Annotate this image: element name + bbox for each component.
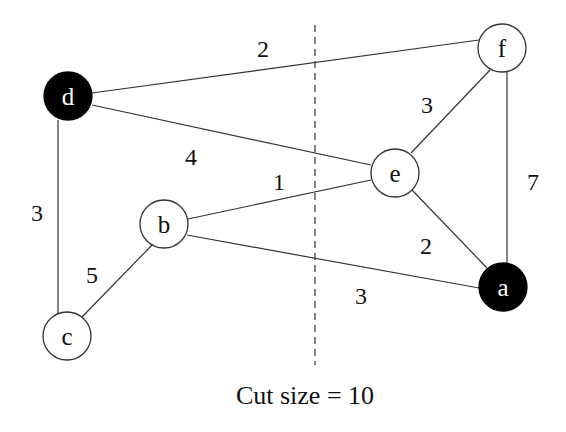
weight-b-c: 5 [86,262,98,288]
node-d: d [44,72,92,120]
weight-f-a: 7 [527,169,539,195]
node-c-label: c [61,323,72,350]
weight-d-f: 2 [257,36,269,62]
weight-e-b: 1 [273,169,285,195]
cut-size-caption: Cut size = 10 [236,381,374,410]
node-a: a [479,263,527,311]
node-f-label: f [498,35,507,62]
weight-d-c: 3 [31,200,43,226]
weight-f-e: 3 [421,92,433,118]
node-b-label: b [158,211,171,238]
graph-diagram: 2 4 3 3 7 1 2 3 5 d f e b a c Cut size =… [0,0,566,432]
node-e: e [371,149,419,197]
edge-weights: 2 4 3 3 7 1 2 3 5 [31,36,539,309]
node-c: c [43,312,91,360]
edge-d-f [92,40,479,93]
node-a-label: a [497,274,508,301]
node-b: b [140,200,188,248]
node-e-label: e [389,160,400,187]
weight-e-a: 2 [420,233,432,259]
node-f: f [478,24,526,72]
weight-d-e: 4 [185,144,197,170]
edge-d-e [92,105,371,165]
weight-b-a: 3 [355,283,367,309]
edge-b-a [187,235,479,288]
node-d-label: d [62,83,75,110]
